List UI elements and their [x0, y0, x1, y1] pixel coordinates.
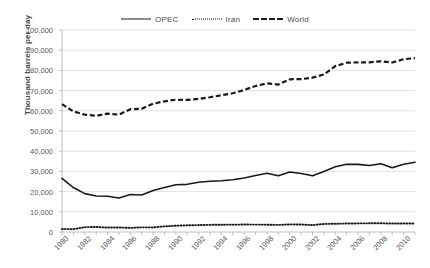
series-line-iran [62, 223, 415, 229]
x-tick-label: 1992 [181, 234, 207, 260]
y-tick-label: 100,000 [26, 26, 53, 35]
x-tick-label: 2002 [295, 234, 321, 260]
legend-item-opec: OPEC [121, 15, 178, 24]
x-tick-label: 1996 [226, 234, 252, 260]
y-tick-label: 10,000 [30, 207, 53, 216]
legend-label-iran: Iran [226, 15, 241, 24]
x-tick-label: 2004 [317, 234, 343, 260]
y-tick-label: 60,000 [30, 106, 53, 115]
plot-svg [62, 30, 415, 232]
x-tick-label: 1982 [67, 234, 93, 260]
y-tick-label: 20,000 [30, 187, 53, 196]
gridlines [62, 30, 415, 212]
line-chart: OPEC Iran World Thousand barrels per day… [0, 0, 430, 268]
x-tick-label: 1988 [135, 234, 161, 260]
x-axis-tick-labels: 1980198219841986198819901992199419961998… [62, 234, 415, 268]
series-line-opec [62, 162, 415, 198]
x-tick-label: 2010 [386, 234, 412, 260]
x-tick-label: 2000 [272, 234, 298, 260]
x-tick-label: 1998 [249, 234, 275, 260]
y-tick-label: 70,000 [30, 86, 53, 95]
series-lines [62, 58, 415, 229]
series-line-world [62, 58, 415, 116]
legend-item-world: World [253, 15, 309, 24]
x-tick-label: 1994 [204, 234, 230, 260]
x-tick-label: 2006 [340, 234, 366, 260]
y-tick-label: 50,000 [30, 127, 53, 136]
y-tick-label: 0 [49, 228, 53, 237]
x-tick-label: 1986 [113, 234, 139, 260]
legend-key-dotted-line-icon [192, 15, 222, 24]
plot-area [62, 30, 415, 232]
chart-legend: OPEC Iran World [0, 12, 430, 26]
y-tick-label: 90,000 [30, 46, 53, 55]
x-tick-label: 1990 [158, 234, 184, 260]
legend-item-iran: Iran [192, 15, 241, 24]
y-axis-tick-labels: 100,00090,00080,00070,00060,00050,00040,… [0, 0, 56, 268]
legend-label-opec: OPEC [155, 15, 178, 24]
legend-key-solid-line-icon [121, 15, 151, 24]
legend-key-dashed-line-icon [253, 15, 283, 24]
x-tick-label: 2008 [363, 234, 389, 260]
legend-label-world: World [287, 15, 309, 24]
x-tick-label: 1984 [90, 234, 116, 260]
y-tick-label: 40,000 [30, 147, 53, 156]
y-tick-label: 30,000 [30, 167, 53, 176]
y-tick-label: 80,000 [30, 66, 53, 75]
